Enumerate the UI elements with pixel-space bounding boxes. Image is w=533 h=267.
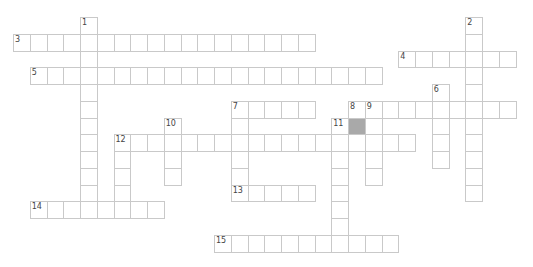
crossword-cell[interactable]: 7: [231, 101, 249, 119]
crossword-cell[interactable]: [331, 151, 349, 169]
crossword-cell[interactable]: [281, 185, 299, 203]
crossword-cell[interactable]: [315, 134, 333, 152]
crossword-cell[interactable]: 6: [432, 84, 450, 102]
crossword-cell[interactable]: 10: [164, 118, 182, 136]
crossword-cell[interactable]: [197, 134, 215, 152]
crossword-cell[interactable]: [298, 34, 316, 52]
crossword-cell[interactable]: [248, 34, 266, 52]
crossword-cell[interactable]: [465, 67, 483, 85]
crossword-cell[interactable]: [365, 118, 383, 136]
crossword-cell[interactable]: [47, 201, 65, 219]
crossword-cell[interactable]: [114, 67, 132, 85]
crossword-cell[interactable]: [130, 134, 148, 152]
crossword-cell[interactable]: [214, 67, 232, 85]
crossword-cell[interactable]: [432, 118, 450, 136]
crossword-cell[interactable]: [382, 235, 400, 253]
crossword-cell[interactable]: 9: [365, 101, 383, 119]
crossword-cell[interactable]: [264, 235, 282, 253]
crossword-cell[interactable]: [114, 168, 132, 186]
crossword-cell[interactable]: [147, 67, 165, 85]
crossword-cell[interactable]: [80, 118, 98, 136]
crossword-cell[interactable]: [331, 235, 349, 253]
crossword-cell[interactable]: 3: [13, 34, 31, 52]
crossword-cell[interactable]: [181, 67, 199, 85]
crossword-cell[interactable]: [80, 101, 98, 119]
crossword-cell[interactable]: [80, 168, 98, 186]
crossword-cell[interactable]: [114, 185, 132, 203]
crossword-cell[interactable]: 11: [331, 118, 349, 136]
crossword-cell[interactable]: [130, 34, 148, 52]
crossword-cell[interactable]: [281, 134, 299, 152]
crossword-cell[interactable]: [331, 218, 349, 236]
crossword-cell[interactable]: [248, 134, 266, 152]
crossword-cell[interactable]: [63, 201, 81, 219]
crossword-cell[interactable]: [114, 151, 132, 169]
crossword-cell[interactable]: [281, 67, 299, 85]
crossword-cell[interactable]: [465, 51, 483, 69]
crossword-cell[interactable]: 15: [214, 235, 232, 253]
crossword-cell[interactable]: [181, 134, 199, 152]
crossword-cell[interactable]: [164, 34, 182, 52]
crossword-cell[interactable]: [80, 84, 98, 102]
crossword-cell[interactable]: [315, 67, 333, 85]
crossword-cell[interactable]: [231, 235, 249, 253]
crossword-cell[interactable]: [382, 101, 400, 119]
crossword-cell[interactable]: [331, 201, 349, 219]
crossword-cell[interactable]: [482, 101, 500, 119]
crossword-cell[interactable]: 2: [465, 17, 483, 35]
crossword-cell[interactable]: [281, 34, 299, 52]
crossword-cell[interactable]: [298, 101, 316, 119]
crossword-cell[interactable]: [331, 134, 349, 152]
crossword-cell[interactable]: [147, 134, 165, 152]
crossword-cell[interactable]: [415, 51, 433, 69]
crossword-cell[interactable]: [499, 51, 517, 69]
crossword-cell[interactable]: 8: [348, 101, 366, 119]
crossword-cell[interactable]: 4: [398, 51, 416, 69]
crossword-cell[interactable]: [164, 67, 182, 85]
crossword-cell[interactable]: [248, 67, 266, 85]
crossword-cell[interactable]: [298, 185, 316, 203]
crossword-cell[interactable]: [499, 101, 517, 119]
crossword-cell[interactable]: [97, 201, 115, 219]
crossword-cell[interactable]: [432, 51, 450, 69]
crossword-cell[interactable]: [80, 34, 98, 52]
crossword-cell[interactable]: [80, 67, 98, 85]
crossword-cell[interactable]: [331, 168, 349, 186]
crossword-cell[interactable]: [164, 168, 182, 186]
crossword-cell[interactable]: [97, 67, 115, 85]
crossword-cell[interactable]: [197, 67, 215, 85]
crossword-cell[interactable]: [365, 67, 383, 85]
crossword-cell[interactable]: [298, 235, 316, 253]
crossword-cell[interactable]: [465, 84, 483, 102]
crossword-cell[interactable]: [398, 134, 416, 152]
crossword-cell[interactable]: [231, 134, 249, 152]
crossword-cell[interactable]: [348, 67, 366, 85]
crossword-cell[interactable]: [80, 51, 98, 69]
crossword-cell[interactable]: [63, 67, 81, 85]
crossword-cell[interactable]: [231, 151, 249, 169]
crossword-cell[interactable]: [331, 67, 349, 85]
crossword-cell[interactable]: [248, 101, 266, 119]
crossword-cell[interactable]: [97, 34, 115, 52]
crossword-cell[interactable]: [130, 67, 148, 85]
crossword-cell[interactable]: [449, 101, 467, 119]
crossword-cell[interactable]: [382, 134, 400, 152]
crossword-cell[interactable]: [365, 168, 383, 186]
crossword-cell[interactable]: [47, 34, 65, 52]
crossword-cell[interactable]: [130, 201, 148, 219]
crossword-cell[interactable]: [231, 168, 249, 186]
crossword-cell[interactable]: [164, 151, 182, 169]
crossword-cell[interactable]: [80, 201, 98, 219]
crossword-cell[interactable]: [264, 185, 282, 203]
crossword-cell[interactable]: [465, 134, 483, 152]
crossword-cell[interactable]: [281, 101, 299, 119]
crossword-cell[interactable]: [315, 235, 333, 253]
crossword-cell[interactable]: [264, 134, 282, 152]
crossword-cell[interactable]: [465, 185, 483, 203]
crossword-cell[interactable]: [264, 67, 282, 85]
crossword-cell[interactable]: [147, 34, 165, 52]
crossword-cell[interactable]: [432, 151, 450, 169]
crossword-cell[interactable]: [147, 201, 165, 219]
crossword-cell[interactable]: [231, 118, 249, 136]
crossword-cell[interactable]: [164, 134, 182, 152]
